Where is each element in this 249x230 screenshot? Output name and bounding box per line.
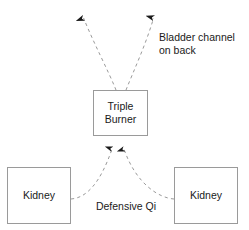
- node-kidney-left-label: Kidney: [8, 189, 70, 202]
- connector-kidney-right-to-triple-burner: [124, 149, 174, 199]
- node-kidney-right[interactable]: Kidney: [174, 167, 238, 224]
- connector-group-bladder-channel: [84, 18, 154, 90]
- connector-group-defensive-qi: [71, 149, 174, 199]
- diagram-canvas: Triple Burner Kidney Kidney Bladder chan…: [0, 0, 249, 230]
- node-triple-burner-label: Triple Burner: [94, 100, 147, 126]
- label-defensive-qi: Defensive Qi: [86, 200, 166, 213]
- node-kidney-right-label: Kidney: [175, 189, 237, 202]
- node-kidney-left[interactable]: Kidney: [7, 167, 71, 224]
- connector-triple-burner-to-upper-left: [84, 18, 116, 90]
- label-bladder-channel: Bladder channel on back: [159, 31, 247, 57]
- connector-triple-burner-to-upper-right: [126, 18, 154, 90]
- connector-kidney-left-to-triple-burner: [71, 149, 112, 199]
- node-triple-burner[interactable]: Triple Burner: [93, 90, 148, 136]
